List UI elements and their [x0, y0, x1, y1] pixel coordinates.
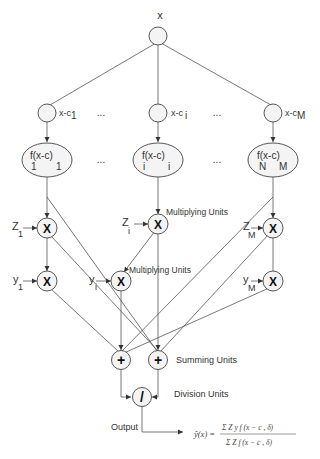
input-node [149, 27, 167, 45]
edge-zM-sum2 [160, 234, 269, 352]
kernel-node-i: f(x-c) i i [133, 143, 183, 177]
y-multiplier-M: y M X [243, 271, 283, 293]
edge-sum2-div [152, 369, 158, 397]
ellipsis-1: ... [97, 107, 105, 118]
multiplying-units-label-2: Multiplying Units [129, 265, 191, 275]
y-multiplier-i: y i X [89, 271, 131, 292]
multiply-icon: X [43, 222, 51, 236]
formula-denominator: Σ Z f (x − c , δ) [225, 438, 272, 447]
edge-sum1-div [121, 369, 131, 397]
z-y-edges [47, 231, 273, 352]
z-sub-M: M [248, 230, 256, 240]
plus-icon: + [154, 352, 162, 368]
formula-numerator: Σ Z y f (x − c , δ) [221, 423, 274, 432]
distance-label-1: x-c1 [59, 108, 77, 121]
kernel-label-i: f(x-c) [142, 150, 165, 161]
distance-kernel-edges [47, 122, 273, 142]
input-label: x [157, 9, 163, 21]
z-multiplier-M: Z M X [243, 218, 283, 240]
kernel-argsub-i: i [168, 161, 170, 172]
divide-icon: / [140, 389, 144, 405]
y-sub-1: 1 [18, 282, 23, 292]
y-sub-i: i [95, 282, 97, 292]
distance-label-i: x-ci [171, 108, 187, 121]
ellipsis-3: ... [97, 154, 105, 165]
summing-units-label: Summing Units [176, 355, 238, 365]
y-sum-edges [51, 288, 269, 353]
kernel-node-M: f(x-c) N M [248, 143, 298, 177]
kernel-fsub-M: N [259, 161, 266, 172]
kernel-fsub-i: i [143, 161, 145, 172]
distance-node-i: x-ci [149, 104, 187, 122]
plus-icon: + [117, 352, 125, 368]
edge-yM-sum1 [124, 288, 269, 353]
kernel-argsub-1: 1 [56, 161, 62, 172]
output-label: Output [111, 422, 139, 432]
edge-div-output [142, 406, 183, 432]
kernel-node-1: f(x-c) 1 1 [22, 143, 72, 177]
output-formula: ŷ(x) = Σ Z y f (x − c , δ) Σ Z f (x − c … [193, 423, 296, 447]
edge-z1-sum2 [51, 236, 158, 351]
multiply-icon: X [43, 275, 51, 289]
y-sub-M: M [248, 283, 256, 293]
distance-circle-i [149, 104, 167, 122]
ellipsis-4: ... [213, 154, 221, 165]
kernel-z-edges [47, 177, 273, 351]
input-edges [50, 43, 271, 105]
kernel-argsub-M: M [279, 161, 287, 172]
multiply-icon: X [269, 222, 277, 236]
distance-node-M: x-cM [264, 104, 305, 122]
z-sub-1: 1 [18, 229, 23, 239]
kernel-label-M: f(x-c) [257, 150, 280, 161]
multiply-icon: X [154, 218, 162, 232]
edge-x-to-d1 [50, 43, 156, 105]
multiply-icon: X [269, 275, 277, 289]
z-multiplier-i: Z i X [122, 214, 168, 236]
z-multiplier-1: Z 1 X [12, 218, 57, 239]
kernel-fsub-1: 1 [31, 161, 37, 172]
ellipsis-2: ... [213, 107, 221, 118]
formula-lhs: ŷ(x) = [193, 429, 215, 439]
distance-label-M: x-cM [285, 108, 305, 121]
multiply-icon: X [117, 275, 125, 289]
kernel-label-1: f(x-c) [30, 150, 53, 161]
z-sub-i: i [128, 226, 130, 236]
distance-circle-1 [38, 104, 56, 122]
distance-node-1: x-c1 [38, 104, 77, 122]
division-units-label: Division Units [174, 389, 229, 399]
y-multiplier-1: y 1 X [13, 271, 57, 292]
summing-node-numerator: + [112, 351, 131, 370]
summing-node-denominator: + [149, 351, 168, 370]
edge-x-to-dM [161, 43, 271, 105]
distance-circle-M [264, 104, 282, 122]
division-node: / [133, 388, 152, 407]
multiplying-units-label-1: Multiplying Units [166, 207, 228, 217]
rbf-network-diagram: x x-c1 ... x-ci ... x-cM f(x-c) 1 1 ... … [0, 0, 320, 459]
